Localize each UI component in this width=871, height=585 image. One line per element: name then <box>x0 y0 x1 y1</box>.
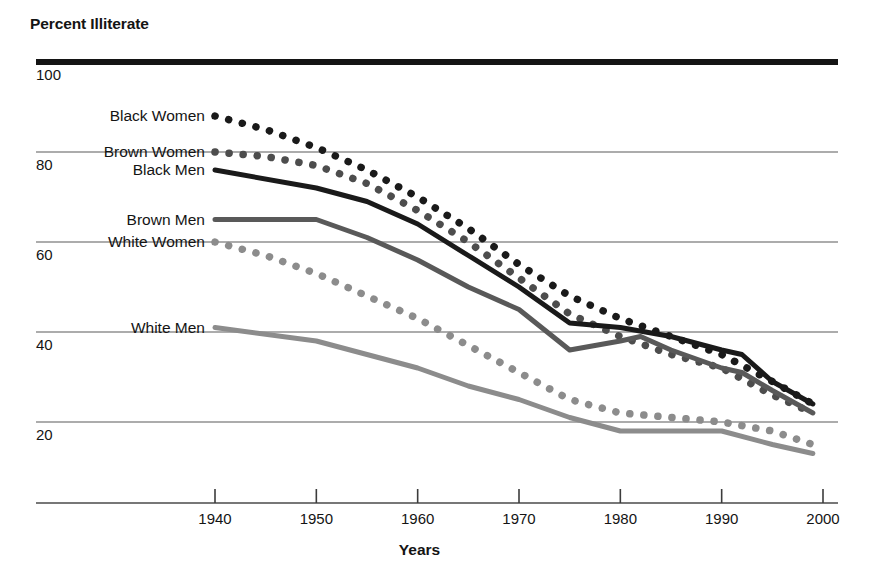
series-line-brown-men <box>215 220 813 414</box>
series-line-white-women <box>215 242 813 445</box>
series-label-brown-men: Brown Men <box>0 211 205 229</box>
series-label-black-men: Black Men <box>0 161 205 179</box>
x-tick-label-1960: 1960 <box>383 510 453 527</box>
x-tick-label-1940: 1940 <box>180 510 250 527</box>
x-tick-marks <box>215 489 823 503</box>
series-line-white-men <box>215 328 813 454</box>
plot-canvas <box>0 0 871 585</box>
x-tick-label-1950: 1950 <box>281 510 351 527</box>
series-label-black-women: Black Women <box>0 107 205 125</box>
illiteracy-line-chart: Percent Illiterate 10080604020 194019501… <box>0 0 871 585</box>
y-tick-label-100: 100 <box>36 66 61 83</box>
series-label-brown-women: Brown Women <box>0 143 205 161</box>
x-tick-label-2000: 2000 <box>788 510 858 527</box>
series-label-white-men: White Men <box>0 319 205 337</box>
series-line-black-women <box>215 116 813 404</box>
y-tick-label-40: 40 <box>36 336 53 353</box>
x-axis-title-text: Years <box>399 541 440 558</box>
x-tick-label-1980: 1980 <box>585 510 655 527</box>
series-label-white-women: White Women <box>0 233 205 251</box>
x-tick-label-1990: 1990 <box>687 510 757 527</box>
series-layer <box>215 116 813 454</box>
x-tick-label-1970: 1970 <box>484 510 554 527</box>
y-tick-label-20: 20 <box>36 426 53 443</box>
x-axis-title: Years <box>0 541 871 559</box>
